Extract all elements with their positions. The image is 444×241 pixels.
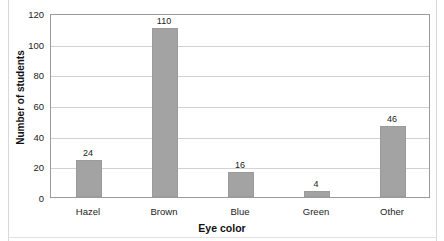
y-axis-label: Number of students [15, 3, 26, 193]
bar-value-label: 110 [157, 16, 171, 26]
gridline [51, 76, 429, 77]
bar [76, 160, 102, 197]
figure-border-right [436, 0, 437, 241]
x-tick-label: Hazel [76, 206, 100, 217]
bar-value-label: 46 [387, 114, 397, 124]
x-tick-label: Other [380, 206, 404, 217]
gridline [51, 107, 429, 108]
x-tick-label: Blue [230, 206, 249, 217]
x-tick-label: Green [303, 206, 329, 217]
bar [152, 28, 178, 197]
figure-border-bottom [8, 237, 437, 238]
gridline [51, 46, 429, 47]
x-axis-label: Eye color [0, 222, 444, 234]
gridline [51, 138, 429, 139]
bar [304, 191, 330, 197]
bar-value-label: 4 [313, 179, 318, 189]
y-tick-label: 0 [4, 193, 44, 204]
bar-chart-figure: 020406080100120 Number of students Hazel… [0, 0, 444, 241]
bar-value-label: 16 [235, 160, 245, 170]
bar [380, 126, 406, 197]
bar [228, 172, 254, 197]
figure-border-left [8, 0, 9, 241]
bar-value-label: 24 [83, 148, 93, 158]
x-tick-label: Brown [151, 206, 178, 217]
